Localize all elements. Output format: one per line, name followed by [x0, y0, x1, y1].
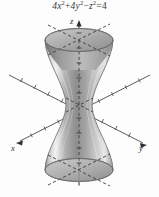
y-axis-label: y — [139, 143, 143, 153]
x-axis-label: x — [11, 143, 15, 153]
hyperboloid-figure: 4x2+4y2−z2=4 — [0, 0, 159, 197]
z-axis-label: z — [70, 16, 73, 26]
surface-plot — [0, 0, 159, 197]
